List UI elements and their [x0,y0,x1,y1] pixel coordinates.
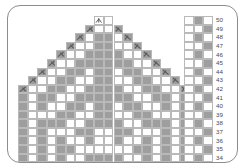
empty-stitch-cell[interactable] [75,76,85,85]
empty-stitch-cell[interactable] [152,68,162,77]
filled-stitch-cell[interactable] [66,42,76,51]
empty-stitch-cell[interactable] [161,76,171,85]
filled-stitch-cell[interactable] [133,76,143,85]
legend-empty-cell[interactable] [194,59,204,68]
legend-empty-cell[interactable] [203,85,213,94]
filled-stitch-cell[interactable] [161,128,171,137]
empty-stitch-cell[interactable] [133,93,143,102]
legend-empty-cell[interactable] [184,128,194,137]
filled-stitch-cell[interactable] [85,50,95,59]
filled-stitch-cell[interactable] [37,136,47,145]
filled-stitch-cell[interactable] [75,102,85,111]
filled-stitch-cell[interactable] [94,119,104,128]
legend-empty-cell[interactable] [203,136,213,145]
legend-empty-cell[interactable] [184,154,194,163]
empty-stitch-cell[interactable] [114,33,124,42]
filled-stitch-cell[interactable] [56,85,66,94]
filled-stitch-cell[interactable] [114,85,124,94]
empty-stitch-cell[interactable] [123,76,133,85]
empty-stitch-cell[interactable] [37,111,47,120]
empty-stitch-cell[interactable] [28,111,38,120]
filled-stitch-cell[interactable] [123,59,133,68]
filled-stitch-cell[interactable] [104,154,114,163]
empty-stitch-cell[interactable] [123,111,133,120]
filled-stitch-cell[interactable] [142,154,152,163]
empty-stitch-cell[interactable] [28,128,38,137]
empty-stitch-cell[interactable] [37,76,47,85]
filled-stitch-cell[interactable] [104,102,114,111]
empty-stitch-cell[interactable] [56,102,66,111]
filled-stitch-cell[interactable] [94,93,104,102]
filled-stitch-cell[interactable] [161,119,171,128]
empty-stitch-cell[interactable] [142,93,152,102]
empty-stitch-cell[interactable] [123,50,133,59]
empty-stitch-cell[interactable] [133,50,143,59]
filled-stitch-cell[interactable] [161,136,171,145]
empty-stitch-cell[interactable] [94,128,104,137]
empty-stitch-cell[interactable] [85,42,95,51]
empty-stitch-cell[interactable] [28,145,38,154]
filled-stitch-cell[interactable] [114,119,124,128]
filled-stitch-cell[interactable] [123,33,133,42]
filled-stitch-cell[interactable] [171,76,181,85]
empty-stitch-cell[interactable] [152,154,162,163]
filled-stitch-cell[interactable] [104,93,114,102]
empty-stitch-cell[interactable] [152,128,162,137]
filled-stitch-cell[interactable] [123,128,133,137]
legend-filled-cell[interactable] [203,42,213,51]
legend-empty-cell[interactable] [184,68,194,77]
empty-stitch-cell[interactable] [142,68,152,77]
filled-stitch-cell[interactable] [47,93,57,102]
empty-stitch-cell[interactable] [114,42,124,51]
legend-empty-cell[interactable] [184,59,194,68]
filled-stitch-cell[interactable] [133,145,143,154]
legend-filled-cell[interactable] [194,85,204,94]
legend-empty-cell[interactable] [194,111,204,120]
empty-stitch-cell[interactable] [47,128,57,137]
filled-stitch-cell[interactable] [104,119,114,128]
empty-stitch-cell[interactable] [104,16,114,25]
empty-stitch-cell[interactable] [133,119,143,128]
empty-stitch-cell[interactable] [28,102,38,111]
filled-stitch-cell[interactable] [85,128,95,137]
filled-stitch-cell[interactable] [123,68,133,77]
filled-stitch-cell[interactable] [85,119,95,128]
filled-stitch-cell[interactable] [104,50,114,59]
empty-stitch-cell[interactable] [142,59,152,68]
legend-empty-cell[interactable] [203,33,213,42]
legend-filled-cell[interactable] [194,50,204,59]
empty-stitch-cell[interactable] [47,102,57,111]
filled-stitch-cell[interactable] [56,154,66,163]
empty-stitch-cell[interactable] [161,85,171,94]
filled-stitch-cell[interactable] [142,119,152,128]
empty-stitch-cell[interactable] [142,128,152,137]
filled-stitch-cell[interactable] [56,50,66,59]
filled-stitch-cell[interactable] [142,50,152,59]
empty-stitch-cell[interactable] [152,111,162,120]
filled-stitch-cell[interactable] [152,93,162,102]
empty-stitch-cell[interactable] [133,85,143,94]
empty-stitch-cell[interactable] [152,76,162,85]
filled-stitch-cell[interactable] [18,154,28,163]
empty-stitch-cell[interactable] [104,25,114,34]
legend-empty-cell[interactable] [184,93,194,102]
empty-stitch-cell[interactable] [75,119,85,128]
filled-stitch-cell[interactable] [114,50,124,59]
legend-empty-cell[interactable] [194,93,204,102]
empty-stitch-cell[interactable] [47,68,57,77]
filled-stitch-cell[interactable] [66,111,76,120]
legend-empty-cell[interactable] [194,128,204,137]
empty-stitch-cell[interactable] [28,119,38,128]
legend-empty-cell[interactable] [184,136,194,145]
empty-stitch-cell[interactable] [66,50,76,59]
filled-stitch-cell[interactable] [133,68,143,77]
empty-stitch-cell[interactable] [47,111,57,120]
filled-stitch-cell[interactable] [85,25,95,34]
filled-stitch-cell[interactable] [133,102,143,111]
legend-empty-cell[interactable] [184,16,194,25]
empty-stitch-cell[interactable] [66,85,76,94]
empty-stitch-cell[interactable] [133,154,143,163]
empty-stitch-cell[interactable] [28,85,38,94]
filled-stitch-cell[interactable] [18,119,28,128]
filled-stitch-cell[interactable] [104,85,114,94]
